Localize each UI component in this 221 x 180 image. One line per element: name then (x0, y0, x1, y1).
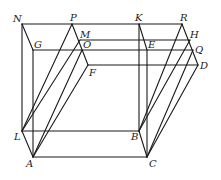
edge-AF (33, 65, 88, 157)
figure-lines (22, 24, 198, 157)
label-A: A (25, 158, 33, 169)
label-C: C (149, 158, 157, 169)
label-L: L (13, 131, 21, 142)
label-N: N (12, 13, 23, 24)
label-G: G (34, 39, 42, 50)
edge-AO (33, 50, 82, 157)
label-D: D (199, 60, 208, 71)
edge-LA (22, 131, 33, 157)
label-R: R (179, 12, 188, 23)
label-O: O (83, 39, 91, 50)
edge-LP (22, 24, 72, 131)
label-K: K (134, 12, 143, 23)
label-Q: Q (195, 44, 203, 55)
label-P: P (69, 12, 77, 23)
edge-BC (139, 131, 147, 157)
geometry-diagram: N P K R M H G O E Q F D L B A C (0, 0, 221, 180)
edge-CD (147, 65, 198, 157)
edge-KE (139, 24, 147, 50)
label-E: E (147, 39, 156, 50)
edge-NG (22, 24, 33, 50)
label-H: H (189, 29, 199, 40)
label-F: F (88, 67, 97, 78)
label-B: B (130, 131, 138, 142)
